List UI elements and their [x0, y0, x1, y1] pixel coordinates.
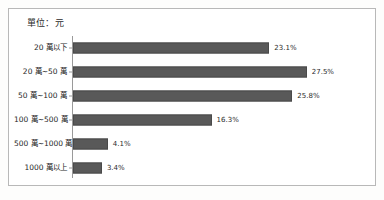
category-label: 500 萬~1000 萬	[14, 140, 67, 148]
bar-value-label: 3.4%	[107, 165, 125, 172]
bar-value-label: 16.3%	[217, 117, 239, 124]
bar[interactable]	[73, 43, 269, 54]
axis-tick	[69, 168, 72, 169]
bar[interactable]	[73, 139, 108, 150]
axis-tick	[69, 96, 72, 97]
bar[interactable]	[73, 115, 212, 126]
bar-value-label: 27.5%	[312, 69, 334, 76]
bar-value-label: 25.8%	[297, 93, 319, 100]
category-label: 20 萬~50 萬	[14, 68, 67, 76]
bar-row: 500 萬~1000 萬4.1%	[14, 132, 370, 156]
axis-tick	[69, 48, 72, 49]
bar-row: 100 萬~500 萬16.3%	[14, 108, 370, 132]
bar-row: 20 萬~50 萬27.5%	[14, 60, 370, 84]
bar-value-label: 4.1%	[113, 141, 131, 148]
category-label: 100 萬~500 萬	[14, 116, 67, 124]
bar-row: 20 萬以下23.1%	[14, 36, 370, 60]
axis-tick	[69, 144, 72, 145]
plot-area: 20 萬以下23.1%20 萬~50 萬27.5%50 萬~100 萬25.8%…	[14, 34, 370, 180]
bar[interactable]	[73, 91, 292, 102]
bar[interactable]	[73, 163, 102, 174]
axis-tick	[69, 72, 72, 73]
bar[interactable]	[73, 67, 307, 78]
chart-title: 單位：元	[27, 16, 64, 29]
chart-container: 單位：元 20 萬以下23.1%20 萬~50 萬27.5%50 萬~100 萬…	[0, 0, 384, 200]
bar-row: 50 萬~100 萬25.8%	[14, 84, 370, 108]
category-label: 1000 萬以上	[14, 164, 67, 172]
axis-tick	[69, 120, 72, 121]
bar-row: 1000 萬以上3.4%	[14, 156, 370, 180]
category-label: 20 萬以下	[14, 44, 67, 52]
bar-value-label: 23.1%	[274, 45, 296, 52]
category-label: 50 萬~100 萬	[14, 92, 67, 100]
